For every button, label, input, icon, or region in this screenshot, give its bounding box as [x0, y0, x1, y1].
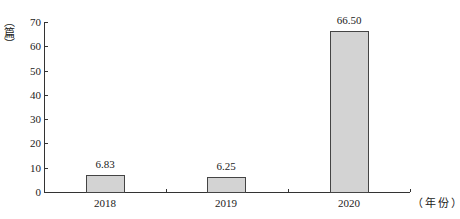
y-tick [45, 46, 48, 47]
bar-2020 [330, 31, 369, 194]
y-tick-label: 50 [17, 65, 41, 77]
x-axis-label: （年份） [412, 197, 460, 209]
y-tick-label: 0 [17, 186, 41, 198]
y-axis-label: （篇） [3, 16, 15, 49]
y-tick [45, 22, 48, 23]
x-tick [166, 189, 167, 192]
x-tick [288, 189, 289, 192]
y-tick-label: 40 [17, 89, 41, 101]
y-tick [45, 95, 48, 96]
x-tick [410, 189, 411, 192]
y-tick [45, 168, 48, 169]
value-label: 6.83 [80, 158, 130, 170]
y-tick [45, 119, 48, 120]
x-tick-label: 2019 [201, 197, 251, 209]
y-tick [45, 192, 48, 193]
value-label: 66.50 [324, 14, 374, 26]
x-tick-label: 2020 [324, 197, 374, 209]
value-label: 6.25 [201, 160, 251, 172]
y-tick-label: 60 [17, 40, 41, 52]
y-tick [45, 143, 48, 144]
y-tick-label: 10 [17, 162, 41, 174]
bar-2018 [86, 175, 125, 193]
y-tick-label: 30 [17, 113, 41, 125]
y-tick [45, 71, 48, 72]
y-tick-label: 70 [17, 16, 41, 28]
bar-2019 [207, 177, 246, 193]
y-tick-label: 20 [17, 137, 41, 149]
bar-chart: 0102030405060706.8320186.25201966.502020… [0, 0, 460, 219]
y-axis [44, 22, 45, 192]
x-tick-label: 2018 [80, 197, 130, 209]
